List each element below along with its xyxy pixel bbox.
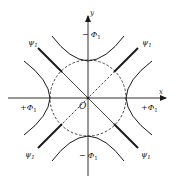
quadrupole-field-diagram: x y O −Φ1 −Φ1 +Φ1 +Φ1 ψ1 ψ1 ψ1 ψ1: [0, 0, 176, 183]
psi-label-bottom-left: ψ1: [25, 150, 35, 160]
phi-label-top: −Φ1: [82, 30, 101, 40]
psi-line-top-left: [38, 48, 62, 72]
phi-label-left: +Φ1: [20, 103, 37, 113]
psi-label-bottom-right: ψ1: [141, 150, 151, 160]
psi-label-top-left: ψ1: [28, 38, 38, 48]
psi-line-bottom-right: [114, 124, 138, 148]
psi-line-bottom-left: [38, 124, 62, 148]
y-axis-label: y: [89, 9, 95, 17]
phi-label-right: +Φ1: [141, 103, 158, 113]
x-axis-label: x: [159, 88, 163, 96]
origin-point: [87, 97, 90, 100]
psi-line-top-right: [114, 48, 138, 72]
origin-label: O: [79, 101, 87, 111]
psi-label-top-right: ψ1: [142, 38, 152, 48]
phi-label-bottom: −Φ1: [79, 151, 98, 161]
